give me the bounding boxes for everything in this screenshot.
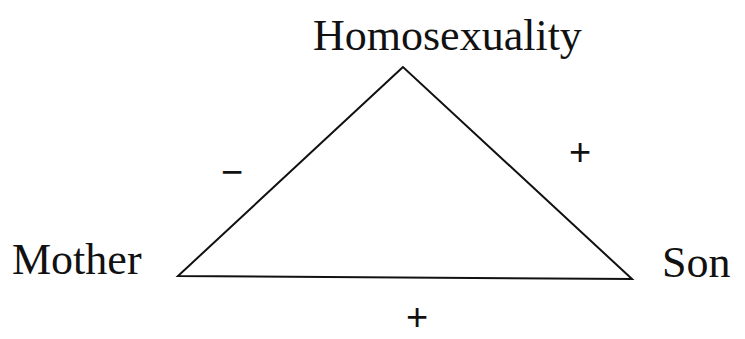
node-homosexuality: Homosexuality <box>313 14 582 58</box>
edge-sign-son-homosexuality: + <box>569 133 591 171</box>
node-son: Son <box>662 241 730 285</box>
edge-sign-mother-son: + <box>406 298 428 336</box>
node-mother: Mother <box>12 238 142 282</box>
triangle-outline <box>178 67 632 279</box>
edge-sign-mother-homosexuality: − <box>221 153 243 191</box>
